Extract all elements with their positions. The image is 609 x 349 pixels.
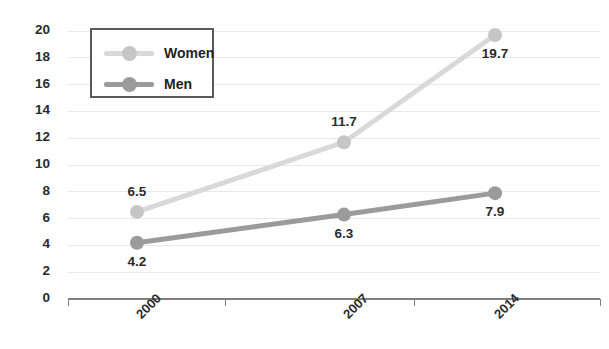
chart-legend: Women Men <box>90 28 214 98</box>
legend-swatch-men <box>104 76 154 92</box>
legend-item-men[interactable]: Men <box>104 73 192 95</box>
data-label-men-2007: 6.3 <box>324 226 364 241</box>
y-axis-tick-8: 8 <box>14 183 50 198</box>
y-axis-tick-2: 2 <box>14 263 50 278</box>
y-axis-tick-18: 18 <box>14 49 50 64</box>
legend-swatch-women <box>104 45 154 61</box>
series-line-men <box>137 193 495 243</box>
y-axis-tick-12: 12 <box>14 129 50 144</box>
data-point-women-2014[interactable] <box>488 28 502 42</box>
y-axis-tick-6: 6 <box>14 210 50 225</box>
data-point-men-2000[interactable] <box>130 236 144 250</box>
data-label-men-2014: 7.9 <box>475 204 515 219</box>
y-axis-tick-4: 4 <box>14 236 50 251</box>
data-label-women-2014: 19.7 <box>475 46 515 61</box>
legend-label-men: Men <box>164 76 192 92</box>
data-point-men-2014[interactable] <box>488 186 502 200</box>
data-point-women-2000[interactable] <box>130 205 144 219</box>
legend-item-women[interactable]: Women <box>104 42 214 64</box>
legend-label-women: Women <box>164 45 214 61</box>
data-point-women-2007[interactable] <box>337 135 351 149</box>
data-point-men-2007[interactable] <box>337 208 351 222</box>
data-label-men-2000: 4.2 <box>117 254 157 269</box>
y-axis-tick-10: 10 <box>14 156 50 171</box>
y-axis-tick-14: 14 <box>14 102 50 117</box>
y-axis-tick-0: 0 <box>14 290 50 305</box>
data-label-women-2007: 11.7 <box>324 114 364 129</box>
y-axis-tick-16: 16 <box>14 76 50 91</box>
y-axis-tick-20: 20 <box>14 22 50 37</box>
line-chart: 20181614121086420 200020072014 6.511.719… <box>0 0 609 349</box>
data-label-women-2000: 6.5 <box>117 184 157 199</box>
